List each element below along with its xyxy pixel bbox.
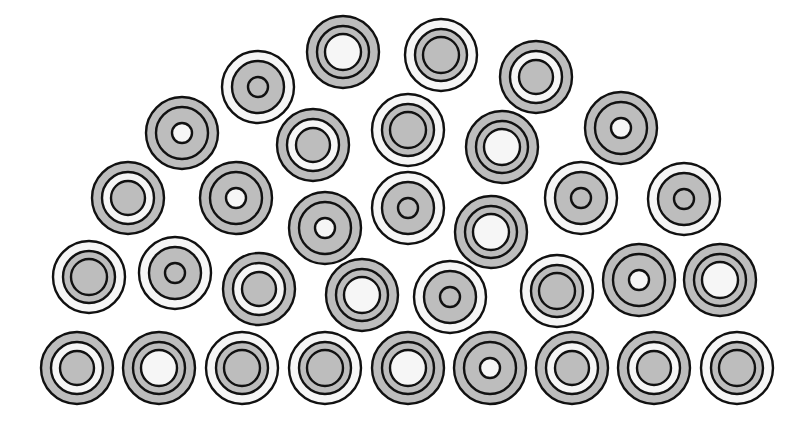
ring-symbol-e [544,161,618,235]
inner-core [702,262,738,298]
ring-symbol-a [40,331,114,405]
ring-symbol-a [222,252,296,326]
concentric-circle-icon [683,243,757,317]
inner-core [480,358,500,378]
inner-core [296,128,330,162]
concentric-circle-icon [371,93,445,167]
inner-core [423,37,459,73]
inner-core [224,350,260,386]
inner-core [637,351,671,385]
inner-core [390,112,426,148]
ring-symbol-b [122,331,196,405]
inner-core [141,350,177,386]
ring-symbol-b [683,243,757,317]
ring-symbol-d [602,243,676,317]
ring-symbol-c [700,331,774,405]
concentric-circle-icon [199,161,273,235]
ring-symbol-d [199,161,273,235]
inner-core [226,188,246,208]
concentric-circle-icon [52,240,126,314]
concentric-circle-icon [602,243,676,317]
concentric-circle-icon [700,331,774,405]
inner-core [172,123,192,143]
inner-core [315,218,335,238]
concentric-circle-icon [520,254,594,328]
ring-symbol-a [91,161,165,235]
ring-symbol-e [413,260,487,334]
inner-core [719,350,755,386]
ring-symbol-a [535,331,609,405]
ring-symbol-e [138,236,212,310]
concentric-circle-icon [122,331,196,405]
concentric-circle-icon [91,161,165,235]
concentric-circle-icon [288,191,362,265]
concentric-circle-icon [465,110,539,184]
concentric-circle-icon [584,91,658,165]
concentric-circle-icon [544,161,618,235]
ring-symbol-b [454,195,528,269]
inner-core [484,129,520,165]
concentric-circle-icon [535,331,609,405]
inner-core [111,181,145,215]
inner-core [242,272,276,306]
concentric-circle-icon [647,162,721,236]
ring-symbol-a [617,331,691,405]
concentric-circle-icon [325,258,399,332]
concentric-circle-icon [371,331,445,405]
concentric-circle-icon [454,195,528,269]
inner-core [611,118,631,138]
ring-symbol-e [647,162,721,236]
inner-core [473,214,509,250]
inner-core [165,263,185,283]
ring-symbol-b [465,110,539,184]
concentric-circle-icon [145,96,219,170]
ring-symbol-b [306,15,380,89]
ring-symbol-c [288,331,362,405]
inner-core [344,277,380,313]
concentric-rings-figure [0,0,812,435]
concentric-circle-icon [288,331,362,405]
ring-symbol-d [145,96,219,170]
inner-core [571,188,591,208]
inner-core [248,77,268,97]
ring-symbol-c [205,331,279,405]
inner-core [539,273,575,309]
concentric-circle-icon [40,331,114,405]
inner-core [71,259,107,295]
concentric-circle-icon [404,18,478,92]
ring-symbol-d [288,191,362,265]
concentric-circle-icon [617,331,691,405]
ring-symbol-a [499,40,573,114]
ring-symbol-c [52,240,126,314]
concentric-circle-icon [371,171,445,245]
inner-core [440,287,460,307]
concentric-circle-icon [276,108,350,182]
concentric-circle-icon [138,236,212,310]
ring-symbol-a [276,108,350,182]
inner-core [60,351,94,385]
concentric-circle-icon [205,331,279,405]
ring-symbol-c [520,254,594,328]
ring-symbol-d [584,91,658,165]
inner-core [519,60,553,94]
inner-core [555,351,589,385]
inner-core [307,350,343,386]
concentric-circle-icon [499,40,573,114]
inner-core [674,189,694,209]
ring-symbol-c [404,18,478,92]
inner-core [629,270,649,290]
ring-symbol-b [325,258,399,332]
concentric-circle-icon [306,15,380,89]
ring-symbol-e [371,171,445,245]
concentric-circle-icon [453,331,527,405]
concentric-circle-icon [413,260,487,334]
ring-symbol-c [371,93,445,167]
concentric-circle-icon [222,252,296,326]
ring-symbol-b [371,331,445,405]
inner-core [325,34,361,70]
inner-core [390,350,426,386]
ring-symbol-d [453,331,527,405]
inner-core [398,198,418,218]
